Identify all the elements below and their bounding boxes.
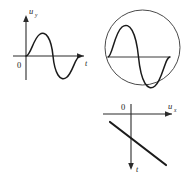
physics-wave-figure: u y t 0 u x 0 t [0, 0, 190, 185]
descending-straight-line [110, 122, 166, 165]
uy-axis-arrowhead [23, 15, 29, 22]
magnified-circle-inset [105, 10, 180, 88]
origin-label-top: 0 [17, 60, 21, 70]
uy-axis-label: u [29, 6, 33, 16]
inset-circle-outline [105, 10, 180, 85]
t-axis-label-bottom: t [136, 165, 139, 174]
figure-canvas: u y t 0 u x 0 t [0, 0, 190, 185]
uy-axis-label-subscript: y [34, 12, 38, 18]
top-left-panel: u y t 0 [13, 6, 88, 80]
ux-axis-arrowhead [165, 111, 172, 117]
t-axis-arrowhead-bottom [128, 163, 134, 170]
ux-axis-label: u [168, 101, 172, 111]
origin-label-bottom: 0 [121, 102, 125, 112]
bottom-right-panel: u x 0 t [103, 101, 177, 174]
ux-axis-label-subscript: x [173, 107, 177, 113]
t-axis-label-top: t [85, 59, 88, 68]
